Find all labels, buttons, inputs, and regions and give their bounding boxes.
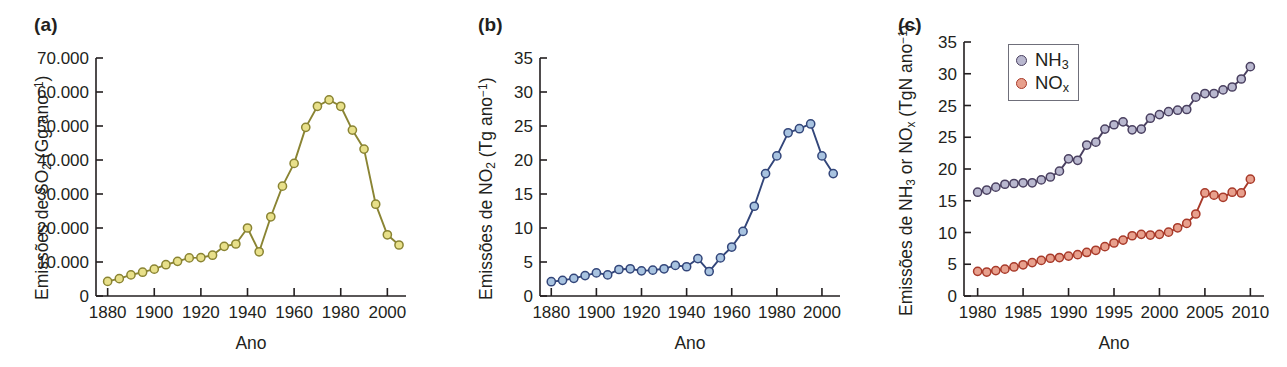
x-tick-label: 1980 xyxy=(758,303,796,322)
data-point xyxy=(671,261,679,269)
legend-label: NH3 xyxy=(1035,49,1069,72)
data-point xyxy=(750,202,758,210)
data-point xyxy=(185,254,193,262)
data-point xyxy=(1164,228,1172,236)
data-point xyxy=(1083,141,1091,149)
x-tick-label: 1985 xyxy=(1004,303,1042,322)
x-tick-label: 1980 xyxy=(322,303,360,322)
data-point xyxy=(243,224,251,232)
data-point xyxy=(1092,246,1100,254)
data-point xyxy=(795,125,803,133)
x-tick-label: 2000 xyxy=(803,303,841,322)
data-point xyxy=(1055,167,1063,175)
y-tick-label: 60.000 xyxy=(37,83,89,102)
data-point xyxy=(220,242,228,250)
panel-c-legend: NH3NOx xyxy=(1008,44,1079,101)
series-line-NO2 xyxy=(551,124,833,282)
data-point xyxy=(1246,175,1254,183)
data-point xyxy=(1001,180,1009,188)
legend-item-nox: NOx xyxy=(1016,72,1069,95)
x-tick-label: 1920 xyxy=(623,303,661,322)
data-point xyxy=(360,145,368,153)
panel-b-tag: (b) xyxy=(478,14,503,36)
y-tick-label: 5 xyxy=(524,253,533,272)
data-point xyxy=(739,227,747,235)
x-tick-label: 1880 xyxy=(532,303,570,322)
data-point xyxy=(1083,248,1091,256)
data-point xyxy=(232,240,240,248)
y-tick-label: 10.000 xyxy=(37,253,89,272)
data-point xyxy=(173,257,181,265)
data-point xyxy=(197,253,205,261)
y-tick-label: 35 xyxy=(514,49,533,68)
data-point xyxy=(716,254,724,262)
data-point xyxy=(1137,230,1145,238)
data-point xyxy=(626,265,634,273)
data-point xyxy=(325,96,333,104)
x-tick-label: 1940 xyxy=(668,303,706,322)
data-point xyxy=(1010,179,1018,187)
y-tick-label: 15 xyxy=(514,185,533,204)
data-point xyxy=(983,268,991,276)
panel-a: (a) Emissões de SO2 (Gg ano−1) 010.00020… xyxy=(0,0,440,367)
data-point xyxy=(313,102,321,110)
y-tick-label: 25 xyxy=(938,128,957,147)
data-point xyxy=(570,274,578,282)
data-point xyxy=(1192,210,1200,218)
data-point xyxy=(1164,108,1172,116)
y-tick-label: 40.000 xyxy=(37,151,89,170)
data-point xyxy=(1119,118,1127,126)
data-point xyxy=(1037,176,1045,184)
data-point xyxy=(1119,236,1127,244)
x-tick-label: 1900 xyxy=(135,303,173,322)
x-tick-label: 1880 xyxy=(89,303,127,322)
data-point xyxy=(337,102,345,110)
data-point xyxy=(1110,239,1118,247)
y-tick-label: 30.000 xyxy=(37,185,89,204)
x-tick-label: 2000 xyxy=(368,303,406,322)
data-point xyxy=(1064,252,1072,260)
data-point xyxy=(728,243,736,251)
data-point xyxy=(150,265,158,273)
data-point xyxy=(162,261,170,269)
legend-label: NOx xyxy=(1035,72,1069,95)
data-point xyxy=(1237,75,1245,83)
data-point xyxy=(1064,155,1072,163)
data-point xyxy=(1046,254,1054,262)
data-point xyxy=(1219,193,1227,201)
data-point xyxy=(1110,121,1118,129)
data-point xyxy=(1237,189,1245,197)
y-tick-label: 15 xyxy=(938,192,957,211)
data-point xyxy=(784,129,792,137)
data-point xyxy=(1192,93,1200,101)
data-point xyxy=(1146,114,1154,122)
data-point xyxy=(807,120,815,128)
data-point xyxy=(1037,256,1045,264)
data-point xyxy=(1137,125,1145,133)
data-point xyxy=(761,170,769,178)
data-point xyxy=(1201,89,1209,97)
data-point xyxy=(1210,191,1218,199)
data-point xyxy=(1174,106,1182,114)
data-point xyxy=(1101,243,1109,251)
x-tick-label: 1990 xyxy=(1050,303,1088,322)
data-point xyxy=(592,269,600,277)
data-point xyxy=(208,251,216,259)
data-point xyxy=(1128,232,1136,240)
data-point xyxy=(115,275,123,283)
data-point xyxy=(1228,188,1236,196)
data-point xyxy=(302,123,310,131)
data-point xyxy=(660,265,668,273)
x-tick-label: 2005 xyxy=(1186,303,1224,322)
y-tick-label: 70.000 xyxy=(37,49,89,68)
x-tick-label: 2000 xyxy=(1141,303,1179,322)
data-point xyxy=(1128,126,1136,134)
data-point xyxy=(290,159,298,167)
y-tick-label: 20.000 xyxy=(37,219,89,238)
data-point xyxy=(139,268,147,276)
y-tick-label: 35 xyxy=(938,33,957,52)
y-tick-label: 50.000 xyxy=(37,117,89,136)
data-point xyxy=(773,152,781,160)
y-tick-label: 0 xyxy=(80,287,89,306)
data-point xyxy=(1019,261,1027,269)
